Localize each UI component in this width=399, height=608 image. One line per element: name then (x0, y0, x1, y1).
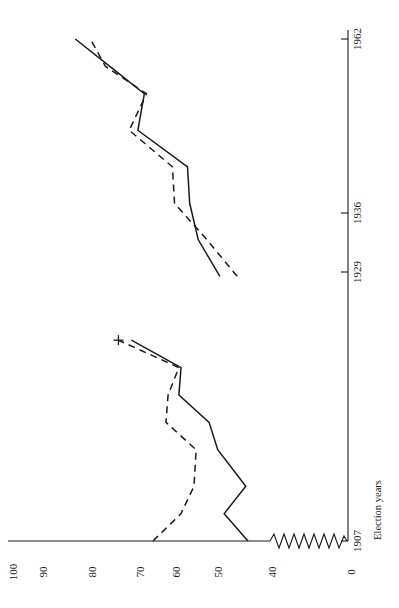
ytick-label-60: 60 (170, 566, 182, 578)
axis-break-zigzag (270, 534, 347, 548)
value-axis-group (8, 534, 347, 548)
xtick-label-1929: 1929 (351, 261, 363, 284)
annotation-markers (113, 335, 123, 345)
xtick-label-1962: 1962 (351, 28, 363, 50)
ytick-label-100: 100 (7, 563, 19, 580)
ytick-label-50: 50 (212, 566, 224, 578)
category-axis-tick-labels: 1907 1929 1936 1962 (351, 28, 363, 552)
xtick-label-1907: 1907 (351, 530, 363, 553)
series-line-solid (75, 39, 248, 541)
ytick-label-0: 0 (345, 569, 357, 575)
series-layer (75, 39, 248, 541)
value-axis-tick-labels: 100 90 80 70 60 50 40 0 (7, 563, 357, 580)
rotated-line-chart: 100 90 80 70 60 50 40 0 1907 1929 1936 1… (0, 0, 399, 608)
xtick-label-1936: 1936 (351, 202, 363, 225)
ytick-label-40: 40 (266, 566, 278, 578)
ytick-label-70: 70 (134, 566, 146, 578)
ytick-label-80: 80 (86, 566, 98, 578)
category-axis-group (341, 30, 348, 541)
ytick-label-90: 90 (37, 566, 49, 578)
series-line-dashed (90, 39, 237, 541)
x-axis-title: Election years (372, 480, 383, 540)
